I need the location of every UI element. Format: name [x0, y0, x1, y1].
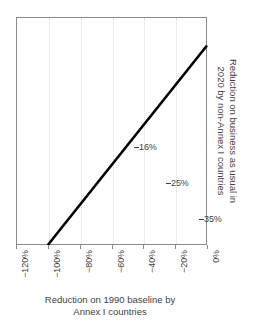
xticklabel-minus60: −60% [117, 250, 126, 273]
gridline [144, 18, 146, 244]
xticklabel-zero: 0% [212, 250, 221, 263]
xtick [80, 245, 81, 249]
gridline [81, 18, 83, 244]
xticklabel-minus100: −100% [53, 250, 62, 278]
gridline [113, 18, 115, 244]
annotation-25pct-label: 25% [171, 178, 189, 188]
x-axis-title: Reduction on 1990 baseline by Annex I co… [0, 294, 220, 318]
y-axis-title-line2: 2020 by non-Annex I countries [215, 67, 227, 196]
xtick [175, 245, 176, 249]
gridline [49, 18, 51, 244]
xticklabel-minus40: −40% [148, 250, 157, 273]
x-axis-title-line2: Annex I countries [0, 306, 220, 318]
plot-area [16, 17, 207, 245]
xtick [143, 245, 144, 249]
xticklabel-minus120: −120% [21, 250, 30, 278]
xtick [207, 245, 208, 249]
chart-figure: 16% 25% 35% −120% −100% −80% −60% −40% −… [0, 0, 257, 329]
y-axis-title-line1: Reduction on business as usual in [227, 59, 239, 203]
xtick [112, 245, 113, 249]
x-axis-title-line1: Reduction on 1990 baseline by [0, 294, 220, 306]
gridline [176, 18, 178, 244]
annotation-16pct: 16% [134, 142, 157, 152]
xtick [16, 245, 17, 249]
y-axis-title: Reduction on business as usual in 2020 b… [210, 17, 244, 245]
xticklabel-minus80: −80% [85, 250, 94, 273]
xticklabel-minus20: −20% [180, 250, 189, 273]
annotation-25pct: 25% [166, 178, 189, 188]
xtick [48, 245, 49, 249]
annotation-16pct-label: 16% [139, 142, 157, 152]
